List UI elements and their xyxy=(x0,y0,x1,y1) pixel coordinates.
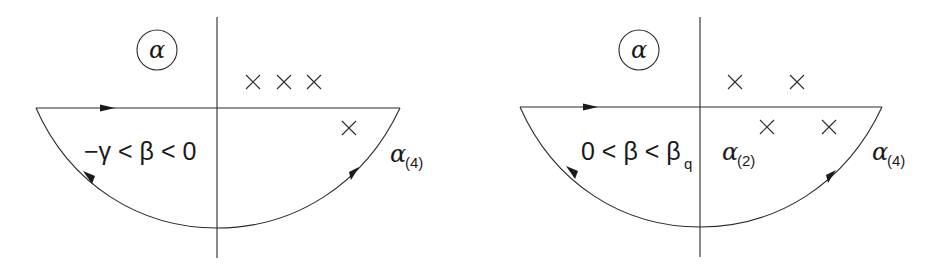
contour-label-left-subscript: (4) xyxy=(405,154,423,171)
arrow-right-icon xyxy=(100,105,115,112)
lower-arc-contour xyxy=(36,108,400,228)
pole-marks-left xyxy=(246,75,356,135)
region-label-left: −γ < β < 0 xyxy=(84,137,196,165)
pole-x-icon xyxy=(246,75,260,89)
arrow-up-left-icon xyxy=(566,166,578,179)
pole-x-icon xyxy=(760,120,774,134)
plane-label: α xyxy=(631,36,647,64)
pole-x-icon xyxy=(728,75,742,89)
pole-x-icon xyxy=(822,120,836,134)
arrow-down-left-icon xyxy=(349,167,359,180)
contour-diagram: α −γ < β < 0 α (4) α 0 < β < β q xyxy=(0,0,943,267)
pole-x-icon xyxy=(307,75,321,89)
contour-label-left-symbol: α xyxy=(390,140,406,168)
pole-marks-right xyxy=(728,75,836,134)
inner-label-symbol: α xyxy=(722,138,738,166)
pole-x-icon xyxy=(342,121,356,135)
arrow-right-icon xyxy=(583,104,598,111)
region-label-right: 0 < β < β xyxy=(581,137,681,165)
contour-label-right-subscript: (4) xyxy=(887,152,905,169)
pole-x-icon xyxy=(277,75,291,89)
pole-x-icon xyxy=(790,75,804,89)
plane-label: α xyxy=(149,36,165,64)
contour-label-right-symbol: α xyxy=(872,138,888,166)
region-label-right-subscript: q xyxy=(684,155,692,172)
arrow-down-left-icon xyxy=(826,170,836,183)
right-panel: α 0 < β < β q α (2) α (4) xyxy=(520,17,905,257)
left-panel: α −γ < β < 0 α (4) xyxy=(36,17,423,258)
inner-label-subscript: (2) xyxy=(737,152,755,169)
